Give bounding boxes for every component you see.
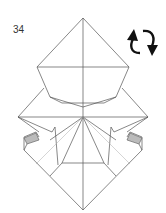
origami-diagram xyxy=(0,0,166,213)
left-pocket-shade xyxy=(24,133,39,144)
right-pocket-shade xyxy=(127,133,142,144)
